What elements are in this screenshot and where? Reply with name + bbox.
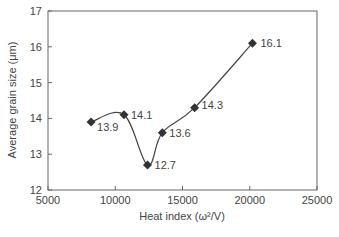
x-tick-label: 25000 [302,194,333,206]
x-tick-label: 20000 [234,194,265,206]
data-labels: 13.914.112.713.614.316.1 [97,37,282,171]
y-axis: 121314151617 [30,5,52,196]
series-line [91,43,252,165]
data-point-label: 13.6 [169,127,190,139]
y-tick-label: 17 [30,5,42,17]
data-point-label: 14.3 [202,99,223,111]
y-tick-label: 16 [30,41,42,53]
chart: 500010000150002000025000 121314151617 13… [0,0,339,237]
data-point-label: 12.7 [155,159,176,171]
y-tick-label: 13 [30,148,42,160]
diamond-marker-icon [87,117,96,126]
y-tick-label: 15 [30,77,42,89]
x-tick-label: 10000 [100,194,131,206]
series-markers [87,39,257,170]
data-point-label: 13.9 [97,121,118,133]
y-tick-label: 14 [30,112,42,124]
x-tick-label: 15000 [167,194,198,206]
y-tick-label: 12 [30,184,42,196]
y-axis-title: Average grain size (μm) [6,42,18,159]
x-axis: 500010000150002000025000 [36,186,333,206]
x-axis-title: Heat index (ω²/V) [139,210,225,222]
data-point-label: 14.1 [131,109,152,121]
data-point-label: 16.1 [260,37,281,49]
